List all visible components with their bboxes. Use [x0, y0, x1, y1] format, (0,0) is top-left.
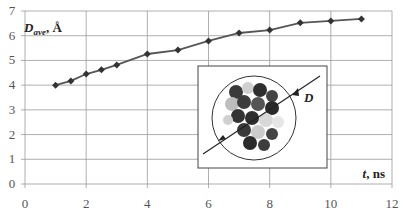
y-tick-label: 2 [9, 127, 16, 142]
x-tick-label: 8 [266, 196, 273, 211]
data-point-marker [52, 82, 59, 89]
data-point-marker [205, 37, 212, 44]
x-tick-label: 2 [83, 196, 90, 211]
y-tick-label: 5 [9, 52, 16, 67]
data-point-marker [358, 15, 365, 22]
x-tick-label: 12 [386, 196, 399, 211]
y-tick-label: 0 [9, 176, 16, 191]
data-point-marker [113, 61, 120, 68]
x-tick-label: 4 [144, 196, 151, 211]
data-point-marker [144, 51, 151, 58]
data-point-marker [67, 77, 74, 84]
data-point-marker [98, 66, 105, 73]
x-axis-label: t, ns [363, 166, 385, 181]
data-point-marker [297, 19, 304, 26]
x-tick-label: 6 [205, 196, 212, 211]
y-tick-label: 7 [9, 3, 16, 18]
data-point-marker [327, 17, 334, 24]
x-axis-ticks: 024681012 [22, 196, 399, 211]
data-point-marker [174, 47, 181, 54]
data-point-marker [266, 27, 273, 34]
x-tick-label: 10 [324, 196, 337, 211]
diameter-label: D [303, 90, 314, 105]
inset-molecule-diagram: D [198, 66, 327, 168]
y-axis-label: Dave, Å [23, 20, 62, 37]
svg-text:t, ns: t, ns [363, 166, 385, 181]
x-tick-label: 0 [22, 196, 29, 211]
y-tick-label: 3 [9, 102, 16, 117]
svg-text:Dave, Å: Dave, Å [23, 20, 62, 37]
y-axis-ticks: 01234567 [9, 3, 16, 191]
y-tick-label: 1 [9, 151, 16, 166]
y-tick-label: 4 [9, 77, 16, 92]
data-point-marker [83, 71, 90, 78]
line-chart: 01234567 024681012 Dave, Å [0, 0, 403, 215]
y-tick-label: 6 [9, 28, 16, 43]
